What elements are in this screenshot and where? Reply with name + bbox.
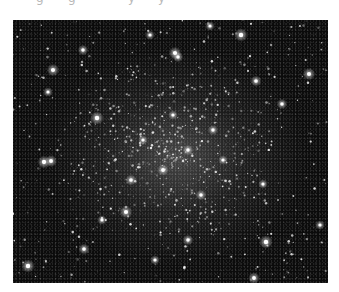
star-cluster-image <box>13 20 328 283</box>
caption-fragment: y <box>128 0 135 5</box>
faint-stars <box>13 20 327 283</box>
caption-fragment: g <box>36 0 44 5</box>
bright-stars <box>21 21 325 283</box>
caption-fragment: g <box>68 0 76 5</box>
star-field <box>13 20 328 283</box>
caption-fragment: y <box>158 0 165 5</box>
caption-remnant: g g y y <box>0 0 339 6</box>
